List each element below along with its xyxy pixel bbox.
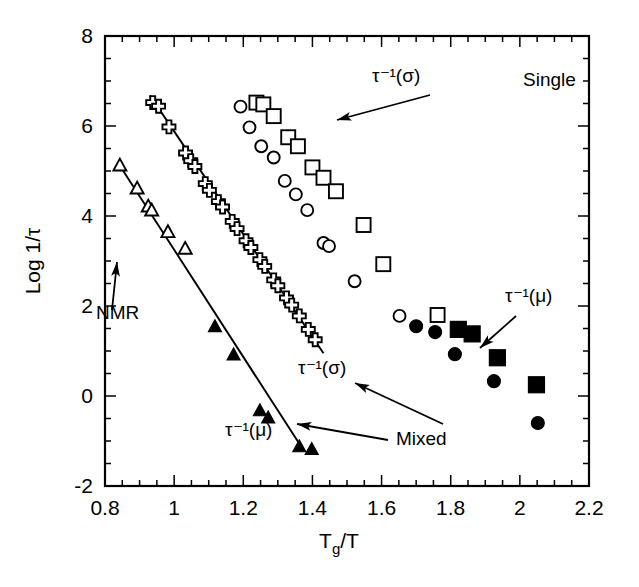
data-point xyxy=(301,204,313,216)
data-point xyxy=(316,171,330,185)
data-points-layer xyxy=(113,96,544,455)
data-point xyxy=(429,326,442,339)
y-axis-title: Log 1/τ xyxy=(21,227,44,294)
data-point xyxy=(267,109,281,123)
data-point xyxy=(290,188,302,200)
y-tick-label: -2 xyxy=(74,474,93,497)
x-tick-label: 1.6 xyxy=(367,496,396,519)
data-point xyxy=(291,139,305,153)
mixed-label: Mixed xyxy=(396,428,447,449)
data-point xyxy=(305,443,318,455)
data-point xyxy=(255,140,267,152)
x-tick-label: 1.2 xyxy=(229,496,258,519)
tau-mu-lower-label: τ⁻¹(μ) xyxy=(225,419,272,440)
y-tick-label: 0 xyxy=(81,384,93,407)
data-point xyxy=(528,377,544,393)
x-tick-label: 1.4 xyxy=(298,496,328,519)
x-tick-label: 2 xyxy=(514,496,526,519)
y-tick-label: 2 xyxy=(81,294,93,317)
data-point xyxy=(464,326,480,342)
data-point xyxy=(323,240,335,252)
data-point xyxy=(293,440,306,452)
data-point xyxy=(113,159,126,171)
y-tick-label: 4 xyxy=(81,204,93,227)
x-tick-label: 1.8 xyxy=(436,496,465,519)
x-tick-label: 2.2 xyxy=(574,496,603,519)
data-point xyxy=(531,417,544,430)
tau-mu-right-label: τ⁻¹(μ) xyxy=(505,285,552,306)
x-axis-title: Tg/T xyxy=(319,529,359,557)
single-label: Single xyxy=(523,69,576,90)
data-point xyxy=(431,308,445,322)
data-point xyxy=(394,310,406,322)
y-tick-label: 6 xyxy=(81,114,93,137)
figure-container: 0.811.21.41.61.822.2-202468Tg/TLog 1/τ S… xyxy=(0,0,639,587)
data-point xyxy=(131,182,144,194)
chart-svg: 0.811.21.41.61.822.2-202468Tg/TLog 1/τ S… xyxy=(0,0,639,587)
data-point xyxy=(349,275,361,287)
data-point xyxy=(357,218,371,232)
data-point xyxy=(253,404,266,416)
x-tick-label: 1 xyxy=(168,496,180,519)
data-point xyxy=(244,121,256,133)
data-point xyxy=(329,184,343,198)
data-point xyxy=(487,375,500,388)
series-group xyxy=(235,101,406,322)
data-point xyxy=(161,225,174,237)
data-point xyxy=(410,320,423,333)
data-point xyxy=(268,152,280,164)
arrow-tau-sigma-top xyxy=(337,95,430,120)
data-point xyxy=(376,257,390,271)
plot-frame xyxy=(105,36,589,486)
y-tick-label: 8 xyxy=(81,24,93,47)
tau-sigma-top-label: τ⁻¹(σ) xyxy=(372,65,420,86)
data-point xyxy=(489,350,505,366)
data-point xyxy=(179,242,192,254)
x-tick-label: 0.8 xyxy=(90,496,119,519)
arrow-tau-sigma-low xyxy=(355,383,443,424)
data-point xyxy=(279,175,291,187)
arrow-mixed xyxy=(297,424,388,440)
nmr-label: NMR xyxy=(96,302,139,323)
data-point xyxy=(448,348,461,361)
data-point xyxy=(235,101,247,113)
tau-sigma-lower-label: τ⁻¹(σ) xyxy=(298,357,346,378)
